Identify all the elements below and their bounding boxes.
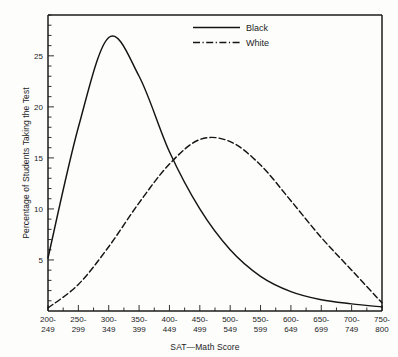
x-tick-label-range-end: 549 [224, 325, 238, 334]
y-tick-label: 5 [39, 256, 44, 265]
y-tick-label: 10 [34, 205, 43, 214]
y-tick-label: 25 [34, 52, 43, 61]
chart-canvas: 510152025 200-249250-299300-349350-39940… [0, 0, 398, 357]
x-tick-label-range-end: 349 [102, 325, 116, 334]
y-tick-label: 20 [34, 103, 43, 112]
x-tick-label-range-end: 449 [163, 325, 177, 334]
series-line-white [48, 137, 382, 308]
x-tick-label-range-start: 600- [283, 315, 299, 324]
x-tick-label-range-start: 650- [313, 315, 329, 324]
legend-label-white: White [246, 38, 269, 48]
x-tick-label-range-start: 200- [40, 315, 56, 324]
x-tick-label-range-end: 749 [345, 325, 359, 334]
y-axis-title: Percentage of Students Taking the Test [21, 87, 31, 239]
x-axis-ticks [48, 305, 382, 311]
x-tick-label-range-end: 499 [193, 325, 207, 334]
x-tick-label-range-start: 250- [70, 315, 86, 324]
x-tick-label-range-start: 500- [222, 315, 238, 324]
y-axis-tick-labels: 510152025 [34, 52, 43, 265]
x-tick-label-range-start: 400- [161, 315, 177, 324]
x-tick-label-range-end: 249 [41, 325, 55, 334]
x-tick-label-range-start: 700- [344, 315, 360, 324]
x-tick-label-range-end: 299 [72, 325, 86, 334]
x-tick-label-range-start: 450- [192, 315, 208, 324]
x-tick-label-range-end: 399 [132, 325, 146, 334]
x-tick-label-range-start: 750- [374, 315, 390, 324]
x-tick-label-range-end: 599 [254, 325, 268, 334]
series-line-black [48, 36, 382, 307]
x-tick-label-range-start: 300- [101, 315, 117, 324]
x-tick-label-range-start: 550- [253, 315, 269, 324]
x-tick-label-range-end: 649 [284, 325, 298, 334]
chart-figure: 510152025 200-249250-299300-349350-39940… [0, 0, 398, 357]
x-tick-label-range-end: 800 [375, 325, 389, 334]
x-axis-tick-labels: 200-249250-299300-349350-399400-449450-4… [40, 315, 390, 334]
x-tick-label-range-start: 350- [131, 315, 147, 324]
x-axis-title: SAT—Math Score [170, 342, 239, 352]
legend-label-black: Black [246, 23, 269, 33]
y-axis-ticks [48, 15, 54, 301]
chart-legend: Black White [193, 23, 269, 48]
x-tick-label-range-end: 699 [315, 325, 329, 334]
y-tick-label: 15 [34, 154, 43, 163]
data-series-group [48, 36, 382, 308]
